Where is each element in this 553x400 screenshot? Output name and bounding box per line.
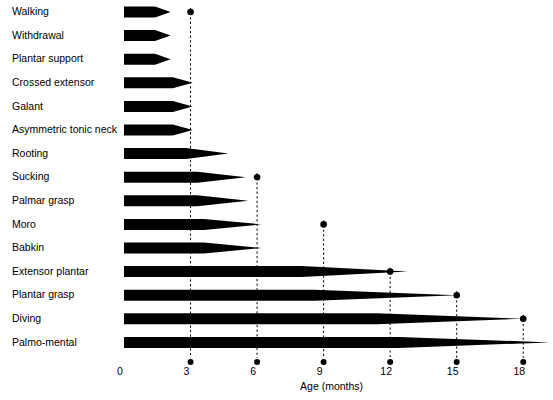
x-tick-label-15: 15	[447, 365, 459, 377]
category-label: Galant	[12, 100, 43, 112]
endpoint-dot-month-12	[387, 268, 394, 275]
category-label: Sucking	[12, 170, 50, 182]
x-tick-label-12: 12	[380, 365, 392, 377]
endpoint-dot-month-6	[254, 174, 261, 181]
category-label: Moro	[12, 218, 36, 230]
chart-container: WalkingWithdrawalPlantar supportCrossed …	[0, 0, 553, 400]
endpoint-dot-month-18	[520, 316, 527, 323]
x-tick-label-6: 6	[250, 365, 256, 377]
x-tick-label-9: 9	[317, 365, 323, 377]
x-axis-title: Age (months)	[300, 380, 363, 392]
x-tick-label-18: 18	[513, 365, 525, 377]
category-label: Withdrawal	[12, 29, 64, 41]
category-label: Palmar grasp	[12, 194, 75, 206]
category-label: Extensor plantar	[12, 265, 89, 277]
category-label: Rooting	[12, 147, 48, 159]
category-label: Palmo-mental	[12, 336, 77, 348]
endpoint-dot-month-15	[453, 292, 460, 299]
category-label: Asymmetric tonic neck	[12, 123, 118, 135]
category-label: Plantar support	[12, 52, 83, 64]
endpoint-dot-month-9	[320, 221, 327, 228]
category-label: Crossed extensor	[12, 76, 95, 88]
x-tick-label-3: 3	[184, 365, 190, 377]
x-tick-label-0: 0	[117, 365, 123, 377]
endpoint-dot-month-3	[187, 9, 194, 16]
category-label: Plantar grasp	[12, 288, 75, 300]
category-label: Walking	[12, 5, 49, 17]
category-label: Babkin	[12, 241, 44, 253]
category-label: Diving	[12, 312, 41, 324]
primitive-reflex-timeline-chart: WalkingWithdrawalPlantar supportCrossed …	[0, 0, 553, 400]
